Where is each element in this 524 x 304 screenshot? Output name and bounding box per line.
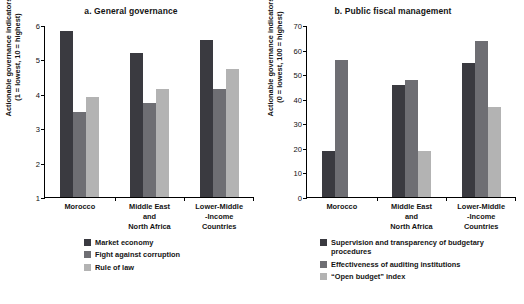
panel-a-x-tick-labels: MoroccoMiddle EastandNorth AfricaLower-M… <box>45 202 254 231</box>
bar[interactable] <box>60 31 73 197</box>
legend-item[interactable]: “Open budget” index <box>320 272 524 281</box>
panel-a-x-tick-mark <box>184 197 185 201</box>
panel-a-x-tick-mark <box>253 197 254 201</box>
panel-b-x-tick-labels: MoroccoMiddle EastandNorth AfricaLower-M… <box>307 202 516 231</box>
legend-swatch-icon <box>320 261 327 268</box>
panel-a-y-tick-label: 5 <box>22 56 40 65</box>
x-tick-label-line: Countries <box>184 222 254 232</box>
panel-b-x-tick-mark <box>377 197 378 201</box>
panel-b-y-tick-mark <box>303 51 307 52</box>
panel-b-y-tick-mark <box>303 75 307 76</box>
x-tick-label-line: North Africa <box>377 222 447 232</box>
bar[interactable] <box>322 151 335 197</box>
legend-swatch-icon <box>320 273 327 280</box>
bar[interactable] <box>73 112 86 198</box>
x-tick-label: Lower-Middle-IncomeCountries <box>446 202 516 231</box>
panel-a-plot: Actionable governance indicators (1 = lo… <box>0 22 262 208</box>
panel-b-legend: Supervision and transparency of budgetar… <box>262 238 524 284</box>
panel-a-y-tick-mark <box>41 60 45 61</box>
bar-group <box>115 26 185 197</box>
legend-label: Market economy <box>95 238 153 247</box>
panel-b-plot: Actionable governance indicators (0 = lo… <box>262 22 524 208</box>
x-tick-label-line: Morocco <box>45 202 115 212</box>
legend-label: Effectiveness of auditing institutions <box>331 260 460 269</box>
bar-group <box>45 26 115 197</box>
panel-b-bar-groups <box>307 26 516 197</box>
panel-a-y-tick-label: 6 <box>22 22 40 31</box>
legend-item[interactable]: Effectiveness of auditing institutions <box>320 260 524 269</box>
panel-b-y-tick-label: 0 <box>284 194 302 203</box>
panel-b-x-axis-line <box>306 197 516 198</box>
x-tick-label: Morocco <box>307 202 377 231</box>
legend-swatch-icon <box>84 264 91 271</box>
panel-a-title: a. General governance <box>0 6 262 16</box>
x-tick-label-line: -Income <box>446 212 516 222</box>
panel-b-y-tick-mark <box>303 124 307 125</box>
x-tick-label-line: Lower-Middle <box>184 202 254 212</box>
x-tick-label: Morocco <box>45 202 115 231</box>
bar[interactable] <box>86 97 99 197</box>
legend-label: Rule of law <box>95 263 134 272</box>
bar-group <box>446 26 516 197</box>
bar-group <box>307 26 377 197</box>
bar[interactable] <box>156 89 169 197</box>
panel-b-y-axis-label: Actionable governance indicators (0 = lo… <box>266 0 284 132</box>
x-tick-label: Middle EastandNorth Africa <box>115 202 185 231</box>
panel-a-axes: 123456 <box>44 26 254 198</box>
panel-a-y-tick-mark <box>41 26 45 27</box>
bar[interactable] <box>226 69 239 197</box>
x-tick-label-line: Middle East <box>115 202 185 212</box>
panel-b-y-axis-label-line1: Actionable governance indicators <box>266 0 275 116</box>
panel-b-y-tick-label: 60 <box>284 46 302 55</box>
panel-b-y-tick-label: 40 <box>284 95 302 104</box>
panel-b-y-tick-label: 70 <box>284 22 302 31</box>
panel-a-y-tick-mark <box>41 95 45 96</box>
panel-b-y-tick-mark <box>303 173 307 174</box>
panel-a-y-tick-mark <box>41 129 45 130</box>
x-tick-label-line: Middle East <box>377 202 447 212</box>
panel-a-y-tick-mark <box>41 164 45 165</box>
panel-public-fiscal-management: b. Public fiscal management Actionable g… <box>262 0 524 304</box>
bar[interactable] <box>130 53 143 197</box>
x-tick-label-line: Countries <box>446 222 516 232</box>
panel-a-y-tick-label: 3 <box>22 125 40 134</box>
bar[interactable] <box>488 107 501 197</box>
panel-b-title: b. Public fiscal management <box>262 6 524 16</box>
x-tick-label-line: -Income <box>184 212 254 222</box>
bar[interactable] <box>462 63 475 197</box>
bar[interactable] <box>392 85 405 197</box>
figure-two-panel-bar-charts: a. General governance Actionable governa… <box>0 0 524 304</box>
panel-b-y-tick-label: 20 <box>284 144 302 153</box>
panel-b-y-tick-label: 30 <box>284 120 302 129</box>
panel-a-y-tick-label: 2 <box>22 159 40 168</box>
legend-swatch-icon <box>84 239 91 246</box>
panel-b-y-tick-mark <box>303 26 307 27</box>
x-tick-label-line: Morocco <box>307 202 377 212</box>
x-tick-label-line: and <box>377 212 447 222</box>
panel-a-x-axis-line <box>44 197 254 198</box>
x-tick-label-line: Lower-Middle <box>446 202 516 212</box>
x-tick-label: Middle EastandNorth Africa <box>377 202 447 231</box>
bar[interactable] <box>143 103 156 197</box>
panel-b-y-tick-mark <box>303 100 307 101</box>
bar[interactable] <box>335 60 348 197</box>
legend-label: “Open budget” index <box>331 272 405 281</box>
bar[interactable] <box>418 151 431 197</box>
panel-a-bar-groups <box>45 26 254 197</box>
panel-a-y-tick-label: 4 <box>22 90 40 99</box>
legend-label: Supervision and transparency of budgetar… <box>331 238 521 257</box>
bar[interactable] <box>213 89 226 197</box>
panel-b-axes: 010203040506070 <box>306 26 516 198</box>
panel-b-y-tick-label: 10 <box>284 169 302 178</box>
legend-item[interactable]: Supervision and transparency of budgetar… <box>320 238 524 257</box>
panel-a-y-tick-mark <box>41 198 45 199</box>
bar[interactable] <box>200 40 213 197</box>
bar[interactable] <box>405 80 418 197</box>
bar[interactable] <box>475 41 488 197</box>
panel-b-x-tick-mark <box>446 197 447 201</box>
panel-a-y-tick-label: 1 <box>22 194 40 203</box>
legend-swatch-icon <box>84 251 91 258</box>
bar-group <box>184 26 254 197</box>
x-tick-label-line: and <box>115 212 185 222</box>
panel-a-y-axis-label-line1: Actionable governance indicators <box>4 0 13 116</box>
